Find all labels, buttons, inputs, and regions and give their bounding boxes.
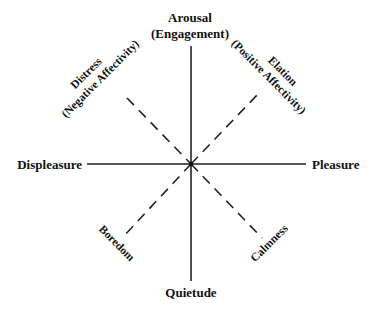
- diagram-svg: Arousal (Engagement) Quietude Displeasur…: [0, 0, 375, 317]
- label-displeasure: Displeasure: [17, 157, 82, 172]
- label-quietude: Quietude: [165, 285, 217, 300]
- label-arousal: Arousal: [168, 10, 212, 25]
- label-pleasure: Pleasure: [312, 157, 360, 172]
- label-engagement: (Engagement): [151, 26, 229, 41]
- label-calmness: Calmness: [248, 222, 290, 264]
- diagonal-distress-boredom: [127, 98, 191, 164]
- diagonal-elation: [191, 93, 259, 164]
- diagonal-boredom: [123, 164, 191, 237]
- center-point: [189, 162, 193, 166]
- circumplex-diagram: Arousal (Engagement) Quietude Displeasur…: [0, 0, 375, 317]
- diagonal-calmness: [191, 164, 262, 238]
